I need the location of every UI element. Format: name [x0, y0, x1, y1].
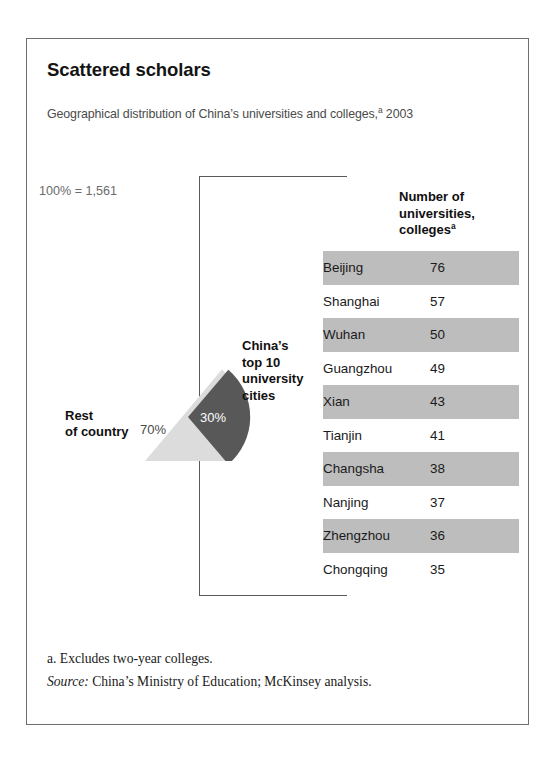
- table-cell-city: Chongqing: [323, 553, 388, 587]
- table-header-line3: collegesa: [399, 222, 519, 239]
- table-cell-city: Wuhan: [323, 318, 365, 352]
- pie-legend-top10-cities: China’s top 10 university cities: [242, 338, 303, 404]
- footnotes: a. Excludes two-year colleges. Source: C…: [47, 647, 507, 693]
- footnote-source-prefix: Source:: [47, 674, 89, 689]
- table-cell-value: 57: [419, 285, 445, 319]
- table-cell-value: 37: [419, 486, 445, 520]
- table-row: Guangzhou49: [323, 352, 519, 386]
- pie-legend-rest-line1: Rest: [65, 408, 129, 424]
- table-column-header: Number of universities, collegesa: [323, 189, 519, 251]
- table-cell-city: Shanghai: [323, 285, 380, 319]
- table-header-line2: universities,: [399, 206, 519, 223]
- pie-total-label: 100% = 1,561: [39, 184, 117, 198]
- table-row: Beijing76: [323, 251, 519, 285]
- footnote-a: a. Excludes two-year colleges.: [47, 647, 507, 670]
- chart-subtitle-text: Geographical distribution of China’s uni…: [47, 107, 378, 121]
- table-header-line3-text: colleges: [399, 222, 451, 237]
- table-row: Changsha38: [323, 452, 519, 486]
- table-row: Chongqing35: [323, 553, 519, 587]
- chart-subtitle: Geographical distribution of China’s uni…: [47, 107, 413, 121]
- table-cell-city: Beijing: [323, 251, 363, 285]
- pie-legend-top10-line2: top 10: [242, 355, 303, 372]
- table-header-line1: Number of: [399, 189, 519, 206]
- table-row: Shanghai57: [323, 285, 519, 319]
- page-title: Scattered scholars: [47, 59, 211, 81]
- table-cell-city: Nanjing: [323, 486, 368, 520]
- table-row: Nanjing37: [323, 486, 519, 520]
- pie-legend-rest-line2: of country: [65, 424, 129, 440]
- table-row: Tianjin41: [323, 419, 519, 453]
- table-row: Xian43: [323, 385, 519, 419]
- footnote-source: Source: China’s Ministry of Education; M…: [47, 670, 507, 693]
- table-cell-city: Xian: [323, 385, 350, 419]
- table-row: Zhengzhou36: [323, 519, 519, 553]
- table-cell-city: Changsha: [323, 452, 384, 486]
- city-table: Number of universities, collegesa Beijin…: [323, 189, 519, 586]
- table-header-footnote-marker: a: [451, 221, 456, 231]
- table-row: Wuhan50: [323, 318, 519, 352]
- footnote-source-text: China’s Ministry of Education; McKinsey …: [89, 674, 372, 689]
- pie-legend-top10-line3: university: [242, 371, 303, 388]
- exhibit-card: Scattered scholars Geographical distribu…: [26, 38, 529, 725]
- table-cell-value: 38: [419, 452, 445, 486]
- table-cell-city: Guangzhou: [323, 352, 392, 386]
- pie-legend-top10-line1: China’s: [242, 338, 303, 355]
- chart-subtitle-year: 2003: [383, 107, 414, 121]
- pie-legend-rest-of-country: Rest of country: [65, 408, 129, 440]
- table-cell-value: 41: [419, 419, 445, 453]
- pie-legend-top10-line4: cities: [242, 388, 303, 405]
- table-cell-city: Tianjin: [323, 419, 362, 453]
- table-cell-value: 76: [419, 251, 445, 285]
- table-cell-city: Zhengzhou: [323, 519, 390, 553]
- table-cell-value: 36: [419, 519, 445, 553]
- table-body: Beijing76Shanghai57Wuhan50Guangzhou49Xia…: [323, 251, 519, 586]
- table-cell-value: 43: [419, 385, 445, 419]
- table-cell-value: 50: [419, 318, 445, 352]
- table-cell-value: 49: [419, 352, 445, 386]
- table-cell-value: 35: [419, 553, 445, 587]
- pie-label-top10-pct: 30%: [200, 410, 226, 425]
- pie-label-rest-pct: 70%: [140, 422, 166, 437]
